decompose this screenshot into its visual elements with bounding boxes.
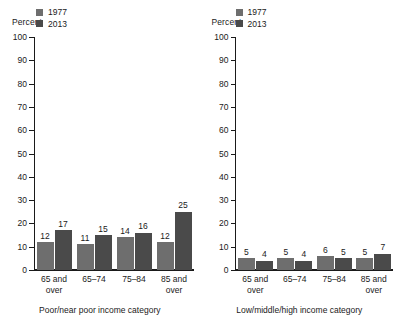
- bar-rect: [157, 242, 174, 270]
- bar-rect: [277, 258, 294, 270]
- bar-2013-75–84[interactable]: 5: [335, 37, 352, 270]
- bar-rect: [77, 244, 94, 270]
- bar-value-label: 5: [341, 248, 346, 257]
- y-tick-label: 30: [219, 196, 228, 205]
- x-category-line: 65–74: [275, 274, 315, 285]
- legend-label-2013: 2013: [48, 20, 67, 29]
- bar-rect: [238, 258, 255, 270]
- x-axis-title-left: Poor/near poor income category: [0, 305, 200, 315]
- x-category-line: over: [154, 285, 194, 296]
- bar-value-label: 4: [301, 250, 306, 259]
- y-tick-label: 60: [18, 126, 27, 135]
- bar-rect: [256, 261, 273, 270]
- x-category-label: 65–74: [74, 274, 114, 296]
- x-category-label: 75–84: [315, 274, 355, 296]
- bar-group: 54: [275, 37, 315, 270]
- y-tick-label: 90: [219, 56, 228, 65]
- bar-rect: [317, 256, 334, 270]
- bar-value-label: 5: [362, 248, 367, 257]
- bar-2013-65-and-over[interactable]: 17: [55, 37, 72, 270]
- x-category-line: 65 and: [236, 274, 276, 285]
- bar-1977-85-and-over[interactable]: 12: [157, 37, 174, 270]
- chart-panel-low-middle-high: Percent 1009080706050403020100 54546557 …: [200, 0, 399, 324]
- bar-1977-65–74[interactable]: 11: [77, 37, 94, 270]
- y-tick-label: 10: [18, 242, 27, 251]
- y-tick-label: 0: [22, 266, 27, 275]
- bar-rect: [55, 230, 72, 270]
- bar-value-label: 25: [178, 201, 187, 210]
- bar-value-label: 4: [262, 250, 267, 259]
- x-category-label: 65 andover: [34, 274, 74, 296]
- x-category-label: 65–74: [275, 274, 315, 296]
- plot-area-right: 1009080706050403020100 54546557: [236, 37, 394, 270]
- x-category-label: 75–84: [114, 274, 154, 296]
- bar-rect: [37, 242, 54, 270]
- bar-rect: [117, 237, 134, 270]
- bar-1977-65–74[interactable]: 5: [277, 37, 294, 270]
- x-category-label: 85 andover: [154, 274, 194, 296]
- bar-value-label: 6: [323, 246, 328, 255]
- x-category-line: 65–74: [74, 274, 114, 285]
- bar-1977-65-and-over[interactable]: 5: [238, 37, 255, 270]
- bar-2013-65–74[interactable]: 4: [295, 37, 312, 270]
- bar-2013-65-and-over[interactable]: 4: [256, 37, 273, 270]
- y-tick-label: 30: [18, 196, 27, 205]
- bar-value-label: 5: [244, 248, 249, 257]
- bar-1977-75–84[interactable]: 6: [317, 37, 334, 270]
- x-category-line: 75–84: [114, 274, 154, 285]
- bar-group: 1225: [154, 37, 194, 270]
- x-category-line: 85 and: [154, 274, 194, 285]
- y-tick-label: 70: [219, 103, 228, 112]
- y-tick-label: 80: [219, 79, 228, 88]
- bar-rect: [175, 212, 192, 270]
- y-tick-label: 60: [219, 126, 228, 135]
- bar-rect: [135, 233, 152, 270]
- y-tick-label: 10: [219, 242, 228, 251]
- bar-value-label: 12: [40, 232, 49, 241]
- x-axis-categories-left: 65 andover65–7475–8485 andover: [34, 274, 194, 296]
- bar-rect: [95, 235, 112, 270]
- bar-2013-85-and-over[interactable]: 25: [175, 37, 192, 270]
- legend-item-2013: 2013: [236, 20, 267, 29]
- y-tick-label: 50: [18, 149, 27, 158]
- bar-group: 1115: [74, 37, 114, 270]
- x-category-line: over: [354, 285, 394, 296]
- legend-swatch-1977: [236, 9, 243, 16]
- bar-1977-75–84[interactable]: 14: [117, 37, 134, 270]
- legend-left: 1977 2013: [36, 8, 67, 28]
- x-category-line: 85 and: [354, 274, 394, 285]
- bar-value-label: 15: [98, 225, 107, 234]
- y-tick-label: 50: [219, 149, 228, 158]
- y-tick-label: 20: [18, 219, 27, 228]
- bar-1977-65-and-over[interactable]: 12: [37, 37, 54, 270]
- bar-value-label: 11: [81, 234, 90, 243]
- bar-group: 54: [236, 37, 276, 270]
- x-axis-title-right: Low/middle/high income category: [200, 305, 399, 315]
- bar-value-label: 12: [160, 232, 169, 241]
- bar-2013-85-and-over[interactable]: 7: [374, 37, 391, 270]
- y-tick-label: 20: [219, 219, 228, 228]
- legend-label-1977: 1977: [248, 8, 267, 17]
- x-category-line: over: [236, 285, 276, 296]
- bar-2013-75–84[interactable]: 16: [135, 37, 152, 270]
- bar-rect: [356, 258, 373, 270]
- legend-swatch-2013: [236, 20, 243, 27]
- bar-value-label: 7: [380, 243, 385, 252]
- legend-item-1977: 1977: [36, 8, 67, 17]
- y-tick-label: 90: [18, 56, 27, 65]
- bar-value-label: 16: [138, 222, 147, 231]
- bar-group: 1217: [34, 37, 74, 270]
- bar-rect: [295, 261, 312, 270]
- y-tick-mark: [231, 270, 236, 271]
- x-category-line: over: [34, 285, 74, 296]
- plot-area-left: 1009080706050403020100 1217111514161225: [34, 37, 194, 270]
- y-tick-label: 80: [18, 79, 27, 88]
- bar-2013-65–74[interactable]: 15: [95, 37, 112, 270]
- legend-item-2013: 2013: [36, 20, 67, 29]
- bar-group: 65: [315, 37, 355, 270]
- x-category-line: 75–84: [315, 274, 355, 285]
- bar-1977-85-and-over[interactable]: 5: [356, 37, 373, 270]
- y-tick-mark: [29, 270, 34, 271]
- legend-label-2013: 2013: [248, 20, 267, 29]
- bar-group: 1416: [114, 37, 154, 270]
